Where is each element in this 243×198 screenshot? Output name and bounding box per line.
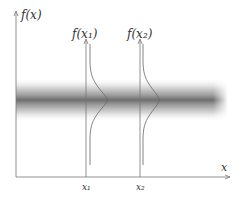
x-axis-label: x xyxy=(221,161,228,174)
distribution-diagram: f(x) x f(x₁) x₁ f(x₂) x₂ xyxy=(0,0,243,198)
tick-label-x1: x₁ xyxy=(82,182,91,192)
y-axis-label: f(x) xyxy=(20,8,42,22)
distribution-label-x1: f(x₁) xyxy=(71,27,98,41)
tick-label-x2: x₂ xyxy=(136,182,145,192)
distribution-label-x2: f(x₂) xyxy=(126,27,153,41)
